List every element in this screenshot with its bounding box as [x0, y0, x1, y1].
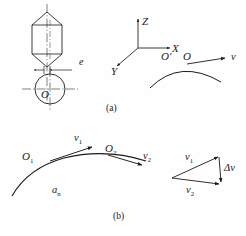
panel-a-trajectory-curve: [150, 71, 221, 88]
panel-a-path-group: [150, 58, 225, 88]
circle-center-label: O: [41, 89, 49, 100]
panel-a-velocity-label: v: [231, 52, 236, 63]
figure-drawing-canvas: [0, 0, 246, 236]
technical-figure: e O Z X Y O′ O v (a) O1 O2 v1 v2 an v1 v…: [0, 0, 246, 236]
triangle-v1-label: v1: [185, 152, 193, 165]
axis-z-label: Z: [142, 16, 148, 27]
triangle-v1-vector: [172, 157, 218, 178]
panel-a-caption: (a): [106, 104, 117, 114]
panel-b-velocity-1-label: v1: [74, 133, 82, 146]
panel-b-caption: (b): [113, 212, 124, 222]
panel-b-point-o1-label: O1: [22, 151, 33, 165]
panel-b-normal-acceleration-label: an: [52, 185, 61, 198]
panel-a-point-o-label: O: [183, 51, 191, 62]
triangle-delta-v-vector: [219, 157, 221, 182]
panel-a-velocity-vector: [187, 58, 225, 64]
panel-b-point-o2-label: O2: [105, 143, 116, 157]
velocity-triangle-group: [172, 157, 221, 184]
triangle-v2-label: v2: [186, 185, 194, 198]
panel-a-point-o-prime-label: O′: [161, 51, 171, 62]
axis-x-label: X: [172, 43, 179, 54]
axis-y-line: [117, 48, 138, 66]
eccentricity-label: e: [79, 57, 83, 67]
triangle-delta-v-label: Δv: [224, 163, 235, 174]
triangle-v2-vector: [172, 178, 219, 184]
panel-b-velocity-2-label: v2: [143, 151, 151, 164]
axis-y-label: Y: [111, 66, 117, 77]
panel-a-prism-group: [22, 4, 78, 110]
